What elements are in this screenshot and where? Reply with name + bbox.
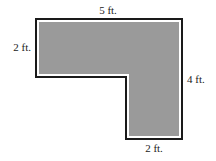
label-top-length: 5 ft. [99,4,117,16]
l-shape-diagram: 5 ft. 2 ft. 4 ft. 2 ft. [0,0,216,161]
label-left-height: 2 ft. [13,41,31,53]
l-shape-fill [39,22,179,136]
label-bottom-length: 2 ft. [145,142,163,154]
label-right-height: 4 ft. [187,73,205,85]
